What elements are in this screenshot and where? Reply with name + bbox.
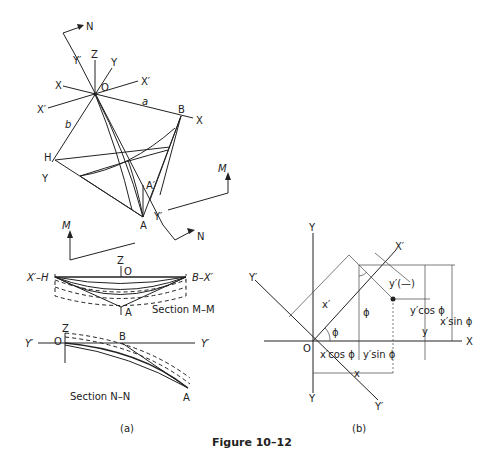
label-yprime-left-nn: Y′ — [25, 338, 34, 349]
plan-view-diagram: N Y′ Z Y O X X′ X′ a B X b H Y A′ M M Y′… — [37, 21, 231, 260]
section-n-n-diagram: Z O B Y′ Y′ A Section N–N — [25, 323, 210, 403]
label-b-edge: b — [65, 119, 71, 130]
label-z-mm: Z — [117, 255, 124, 266]
section-nn-title: Section N–N — [70, 391, 130, 402]
label-y-prime-top: Y′ — [72, 55, 82, 66]
edge-mid-a — [80, 176, 143, 217]
arrow-head-icon — [67, 230, 73, 238]
figure-caption: Figure 10–12 — [212, 436, 292, 449]
label-x-axis-b: X — [466, 336, 473, 347]
curve-nn-2 — [65, 345, 188, 388]
label-y-bottom-b: Y — [308, 393, 316, 404]
label-yprime-left-b: Y′ — [248, 272, 258, 283]
label-n-top: N — [86, 21, 93, 32]
label-xsin-phi: x′sin ϕ — [440, 316, 473, 327]
label-phi-upper: ϕ — [363, 307, 370, 318]
curve-nn-1 — [65, 343, 188, 388]
edge-b-a-nn — [122, 343, 188, 388]
label-ysin-phi: y′sin ϕ — [363, 349, 396, 360]
label-z: Z — [91, 49, 98, 60]
label-y-bottom-left: Y — [41, 173, 49, 184]
label-phi-lower: ϕ — [332, 327, 339, 338]
label-x-prime-left: X′ — [37, 104, 47, 115]
panel-b-label: (b) — [352, 423, 366, 434]
label-x-right: X — [196, 115, 203, 126]
phi-arc-lower — [325, 328, 330, 341]
label-xcos-phi: x′cos ϕ — [320, 349, 355, 360]
label-o: O — [101, 82, 109, 93]
label-x-left: X — [55, 80, 62, 91]
label-n-bottom: N — [197, 231, 204, 242]
label-o-mm: O — [124, 266, 132, 277]
label-b-xprime: B–X′ — [192, 272, 214, 283]
phi-arc-upper — [359, 272, 367, 276]
label-a-prime: A′ — [146, 180, 156, 191]
dashed-outline-mm-3 — [55, 287, 186, 299]
label-y: Y — [110, 57, 118, 68]
label-a-nn: A — [183, 392, 190, 403]
section-n-cut-line-bottom — [163, 225, 190, 240]
y-prime-axis-b — [255, 280, 378, 400]
section-m-cut-line-left — [70, 238, 135, 260]
label-xprime-h: X′–H — [26, 272, 49, 283]
label-o-nn: O — [54, 336, 62, 347]
label-y-b: y — [422, 326, 428, 337]
curve-mid-1 — [80, 150, 168, 176]
section-m-m-diagram: Z O X′–H B–X′ A Section M–M — [26, 255, 215, 318]
arrow-head-icon — [77, 24, 84, 30]
label-m-right: M — [218, 163, 227, 174]
curve-mm-1 — [55, 277, 186, 284]
label-o-b: O — [303, 343, 311, 354]
x-axis — [63, 86, 193, 118]
label-ycos-phi: y′cos ϕ — [410, 305, 445, 316]
label-x-prime-b: x′ — [322, 299, 331, 310]
y-prime-axis — [78, 60, 163, 225]
figure-canvas: N Y′ Z Y O X X′ X′ a B X b H Y A′ M M Y′… — [0, 0, 493, 463]
label-b-nn: B — [119, 331, 126, 342]
x-prime-axis-b — [313, 250, 396, 341]
label-a-mm: A — [125, 307, 132, 318]
panel-a-label: (a) — [120, 423, 134, 434]
label-h: H — [44, 152, 52, 163]
edge-b-a3 — [160, 116, 181, 195]
section-m-cut-line-right — [168, 180, 228, 210]
label-b: B — [178, 104, 185, 115]
label-y-top-b: Y — [308, 222, 316, 233]
label-m-left: M — [62, 220, 71, 231]
label-yprime-bottom-b: Y′ — [374, 401, 384, 412]
label-yprime-neg: y′(—) — [389, 278, 415, 289]
x-prime-dim-line — [289, 255, 349, 317]
label-a-edge: a — [142, 96, 148, 107]
point-marker — [391, 297, 396, 302]
edge-h-b — [55, 147, 170, 160]
label-y-prime-bottom: Y′ — [153, 211, 163, 222]
label-a: A — [140, 220, 147, 231]
panel-b-diagram: Y X′ Y′ y′(—) x′ ϕ y′cos ϕ x′sin ϕ ϕ y X… — [248, 222, 473, 412]
label-z-nn: Z — [62, 323, 69, 334]
label-yprime-right-nn: Y′ — [201, 338, 210, 349]
section-mm-title: Section M–M — [152, 304, 215, 315]
label-xprime-b: X′ — [395, 241, 405, 252]
point-projection-yprime — [349, 255, 393, 299]
label-x-b: x — [354, 368, 360, 379]
label-x-prime-right: X′ — [141, 76, 151, 87]
